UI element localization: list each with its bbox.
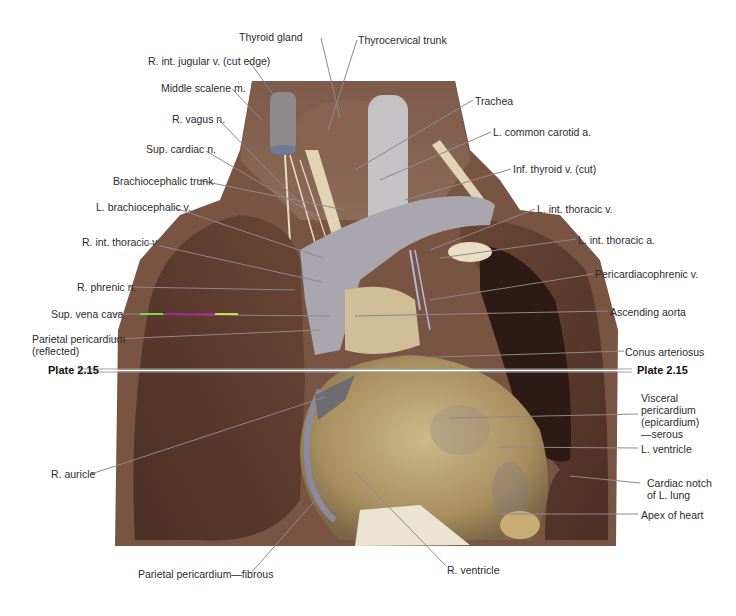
label-conus-arteriosus: Conus arteriosus <box>625 346 704 358</box>
label-l-ventricle: L. ventricle <box>641 443 692 455</box>
label-pericardiacophrenic-v: Pericardiacophrenic v. <box>595 268 698 280</box>
label-trachea: Trachea <box>475 95 513 107</box>
label-parietal-pericardium-fibrous: Parietal pericardium—fibrous <box>138 568 273 580</box>
label-r-ventricle: R. ventricle <box>447 564 500 576</box>
label-r-phrenic-n: R. phrenic n. <box>77 281 137 293</box>
plate-marker-left: Plate 2.15 <box>48 364 99 376</box>
label-inf-thyroid-v: Inf. thyroid v. (cut) <box>513 163 596 175</box>
label-l-common-carotid-a: L. common carotid a. <box>493 126 591 138</box>
label-r-int-jugular-v: R. int. jugular v. (cut edge) <box>148 55 270 67</box>
label-sup-cardiac-n: Sup. cardiac n. <box>146 143 216 155</box>
label-r-int-thoracic-v: R. int. thoracic v. <box>82 236 159 248</box>
label-l-int-thoracic-v: L. int. thoracic v. <box>537 203 613 215</box>
label-parietal-pericardium-reflected: Parietal pericardium (reflected) <box>32 333 125 357</box>
label-apex-of-heart: Apex of heart <box>641 509 703 521</box>
label-l-int-thoracic-a: L. int. thoracic a. <box>578 234 655 246</box>
label-l-brachiocephalic-v: L. brachiocephalic v. <box>96 201 191 213</box>
label-thyrocervical-trunk: Thyrocervical trunk <box>358 34 447 46</box>
label-brachiocephalic-trunk: Brachiocephalic trunk <box>113 175 213 187</box>
label-r-auricle: R. auricle <box>51 468 95 480</box>
label-cardiac-notch: Cardiac notch of L. lung <box>647 477 712 501</box>
label-visceral-pericardium: Visceral pericardium (epicardium) —serou… <box>641 392 699 440</box>
plate-divider <box>78 369 632 372</box>
ascending-aorta-shape <box>345 287 420 354</box>
label-ascending-aorta: Ascending aorta <box>610 306 686 318</box>
label-r-vagus-n: R. vagus n. <box>172 113 225 125</box>
label-middle-scalene-m: Middle scalene m. <box>161 82 246 94</box>
anatomy-figure: Thyroid gland Thyrocervical trunk R. int… <box>0 0 736 616</box>
label-thyroid-gland: Thyroid gland <box>239 31 303 43</box>
plate-marker-right: Plate 2.15 <box>637 364 688 376</box>
label-sup-vena-cava: Sup. vena cava <box>51 308 123 320</box>
